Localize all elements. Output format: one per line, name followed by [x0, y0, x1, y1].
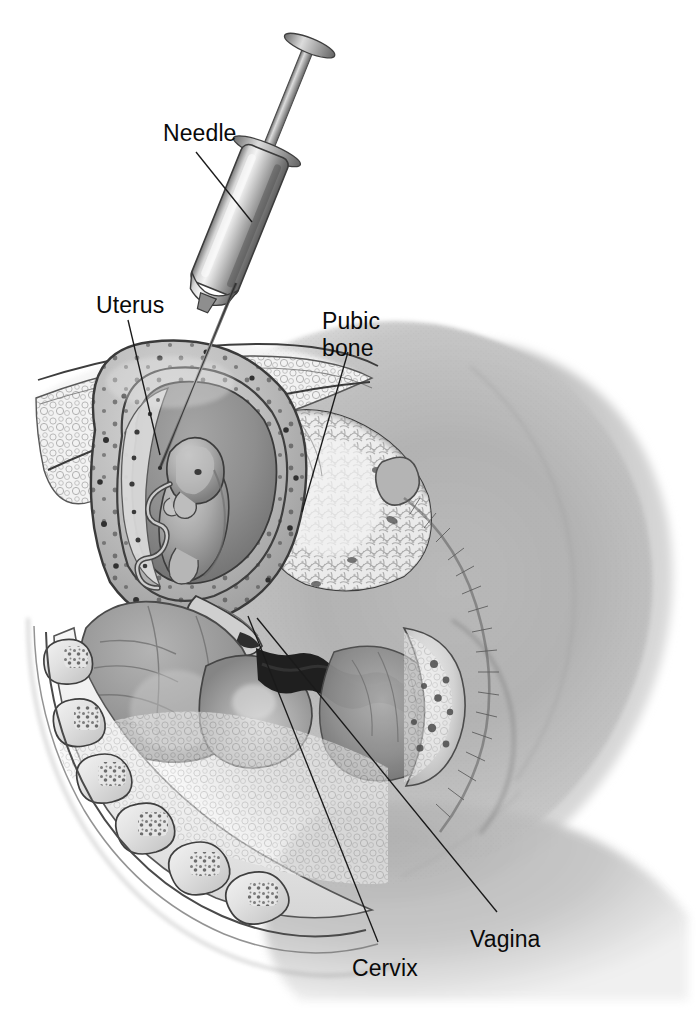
label-pubic-bone: Pubic bone — [322, 308, 380, 362]
label-vagina: Vagina — [470, 926, 541, 953]
anatomical-illustration-canvas — [0, 0, 696, 1025]
medical-illustration-figure: Needle Uterus Pubic bone Vagina Cervix — [0, 0, 696, 1025]
label-uterus: Uterus — [96, 292, 164, 319]
needle-tip — [158, 466, 162, 470]
label-cervix: Cervix — [352, 955, 418, 982]
label-needle: Needle — [163, 120, 237, 147]
plunger-rod — [260, 43, 315, 158]
